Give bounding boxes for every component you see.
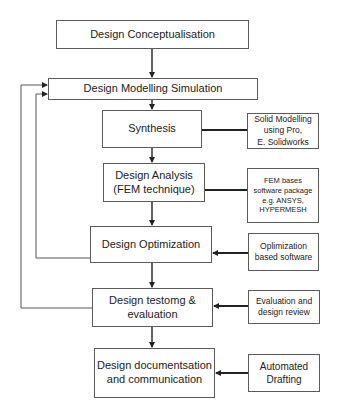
tool-fem-software: FEM bases software package e.g. ANSYS, H… bbox=[247, 168, 319, 223]
step-label: Design Analysis (FEM technique) bbox=[113, 169, 194, 197]
tool-label: Solid Modelling using Pro, E. Solidworks bbox=[254, 114, 312, 147]
tool-optimization-software: Oplimization based software bbox=[248, 233, 319, 271]
step-label: Synthesis bbox=[128, 122, 176, 136]
tool-label: FEM bases software package e.g. ANSYS, H… bbox=[254, 176, 313, 215]
step-label: Design Optimization bbox=[102, 238, 200, 252]
step-design-analysis: Design Analysis (FEM technique) bbox=[103, 163, 205, 202]
tool-label: Automated Drafting bbox=[260, 360, 308, 386]
step-design-conceptualisation: Design Conceptualisation bbox=[56, 20, 249, 49]
step-design-optimization: Design Optimization bbox=[90, 226, 212, 263]
step-design-modelling-simulation: Design Modelling Simulation bbox=[48, 78, 258, 100]
tool-solid-modelling: Solid Modelling using Pro, E. Solidworks bbox=[247, 113, 319, 149]
step-label: Design documentsation and communication bbox=[97, 359, 212, 387]
tool-label: Evaluation and design review bbox=[256, 296, 312, 318]
tool-automated-drafting: Automated Drafting bbox=[248, 354, 320, 392]
step-label: Design Conceptualisation bbox=[90, 28, 215, 42]
step-design-testing: Design testomg & evaluation bbox=[92, 288, 213, 327]
step-synthesis: Synthesis bbox=[102, 110, 202, 148]
step-label: Design testomg & evaluation bbox=[109, 294, 196, 322]
feedback-lines bbox=[21, 85, 92, 308]
tool-evaluation-review: Evaluation and design review bbox=[248, 290, 320, 324]
step-design-documentation: Design documentsation and communication bbox=[94, 348, 215, 398]
tool-label: Oplimization based software bbox=[255, 241, 313, 263]
step-label: Design Modelling Simulation bbox=[84, 82, 223, 96]
